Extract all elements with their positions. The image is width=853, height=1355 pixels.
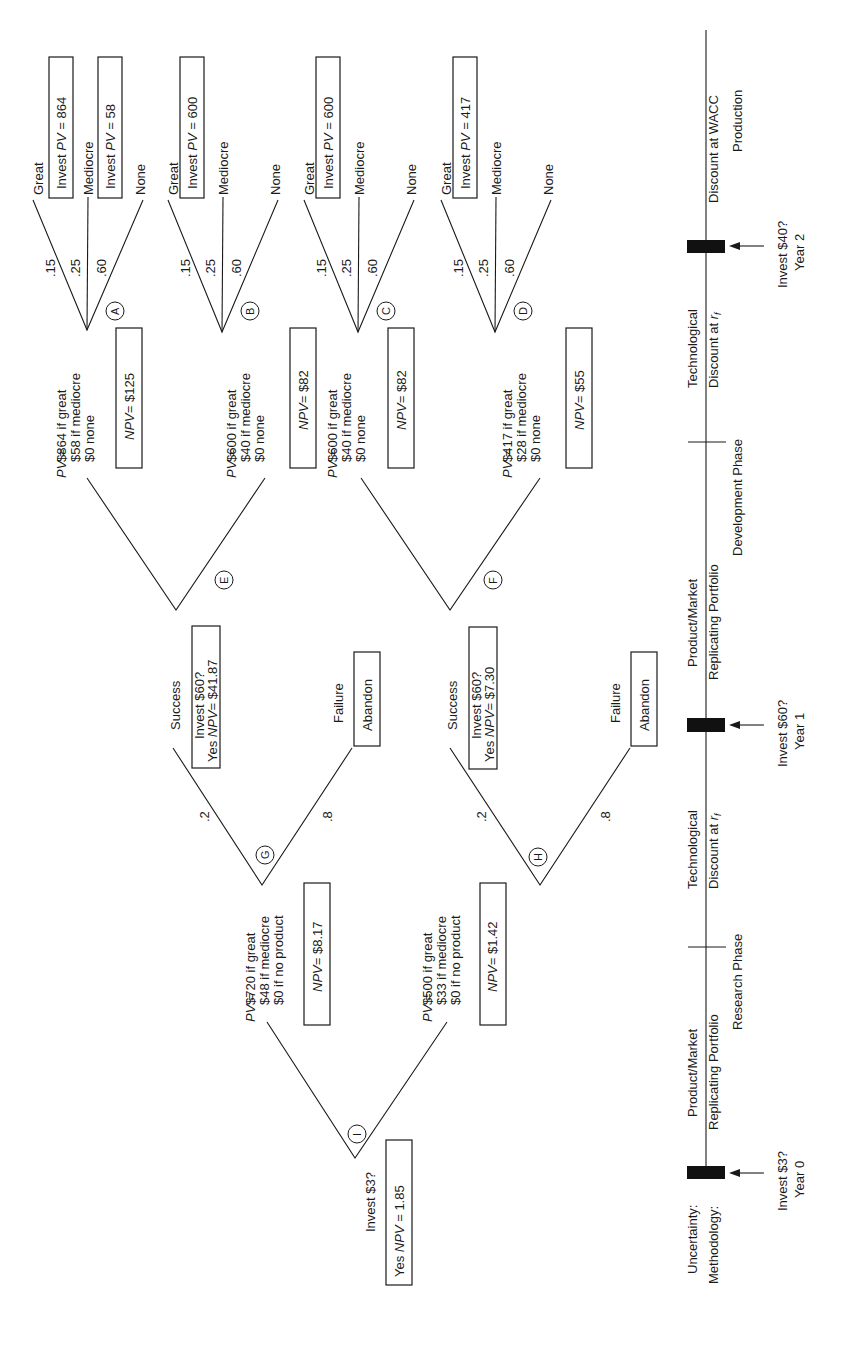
node-a-mediocre-branch [87,197,88,330]
segment-1-uncertainty: Product/Market [685,1028,700,1117]
node-g-group: G .2 .8 Success Invest $60? Yes NPV= $41… [168,626,380,885]
node-i-group: I PV = $720 if great $48 if mediocre $0 … [243,883,506,1285]
timeline-year-1-question: Invest $60? [775,700,790,767]
segment-3-uncertainty: Product/Market [685,578,700,667]
phase-development: Development Phase [730,439,745,556]
node-g-failure-label: Failure [331,683,346,723]
node-d-none-label: None [541,164,556,195]
node-h-success-box-line-2: Yes NPV= $7.30 [482,667,497,762]
node-g-prob-success: .2 [197,811,212,822]
node-d-prob-mediocre: .25 [476,259,491,277]
node-a-prob-mediocre: .25 [68,259,83,277]
arrow-year-1-icon [729,721,764,729]
arrow-year-2-icon [729,242,764,250]
node-i-letter: I [351,1133,363,1136]
node-b-group: Great Mediocre None Invest PV = 600 .15 … [166,57,283,332]
node-i-lower-pv-line-2: $33 if mediocre [434,916,449,1005]
node-f-lower-pv-line-1: $417 if great [500,389,515,462]
node-d-letter: D [517,307,529,315]
segment-1-methodology: Replicating Portfolio [706,1014,721,1130]
node-a-none-label: None [133,164,148,195]
node-f-upper-npv-text: NPV= $82 [394,370,409,430]
timeline-year-0-label: Year 0 [792,1161,807,1198]
node-f-lower-pv-line-2: $28 if mediocre [514,373,529,462]
node-b-mediocre-branch [222,197,223,332]
node-f-upper-pv-line-2: $40 if mediocre [339,373,354,462]
node-h-prob-failure: .8 [598,811,613,822]
timeline-year-0-question: Invest $3? [775,1151,790,1211]
node-b-great-invest-text: Invest PV = 600 [185,97,200,189]
node-b-letter: B [244,308,256,315]
node-i-decision-text: Yes NPV = 1.85 [392,1185,407,1277]
node-b-great-label: Great [166,162,181,195]
timeline: Invest $3? Year 0 Invest $60? Year 1 Inv… [685,30,807,1284]
node-a-great-label: Great [31,162,46,195]
node-g-abandon-text: Abandon [360,679,375,731]
node-c-group: Great Mediocre None Invest PV = 600 .15 … [302,57,419,332]
node-e-group: E PV = $864 if great $58 if mediocre $0 … [54,328,316,610]
node-h-prob-success: .2 [474,811,489,822]
segment-4-uncertainty: Technological [685,309,700,388]
node-f-upper-pv-line-1: $600 if great [325,389,340,462]
node-h-group: H .2 .8 Success Invest $60? Yes NPV= $7.… [445,627,657,885]
decision-block-year-1 [687,718,725,732]
node-g-letter: G [259,850,271,859]
node-c-letter: C [380,307,392,315]
node-e-lower-npv-text: NPV= $82 [296,370,311,430]
node-d-prob-great: .15 [451,259,466,277]
timeline-year-1-label: Year 1 [792,713,807,750]
phase-research: Research Phase [730,934,745,1030]
node-b-mediocre-label: Mediocre [216,142,231,195]
segment-5-methodology: Discount at WACC [706,95,721,203]
node-a-prob-none: .60 [94,259,109,277]
node-a-group: Great Mediocre None Invest PV = 864 Inve… [31,57,148,330]
node-i-upper-npv-text: NPV= $8.17 [310,922,325,992]
timeline-uncertainty-row-label: Uncertainty: [685,1205,700,1274]
decision-block-year-2 [687,240,725,253]
node-e-lower-pv-line-2: $40 if mediocre [238,373,253,462]
decision-tree-diagram: Great Mediocre None Invest PV = 864 Inve… [0,0,853,1355]
node-b-prob-none: .60 [229,259,244,277]
node-i-upper-pv-line-3: $0 if no product [271,915,286,1005]
node-c-mediocre-branch [358,197,359,332]
node-h-failure-label: Failure [608,683,623,723]
segment-2-methodology: Discount at rf [706,812,723,889]
node-b-prob-great: .15 [178,259,193,277]
node-i-lower-pv-line-3: $0 if no product [448,915,463,1005]
node-c-great-invest-text: Invest PV = 600 [321,97,336,189]
node-d-mediocre-label: Mediocre [489,142,504,195]
node-i-lower-npv-text: NPV= $1.42 [485,922,500,992]
node-c-prob-none: .60 [365,259,380,277]
segment-4-methodology: Discount at rf [706,311,723,388]
timeline-methodology-row-label: Methodology: [706,1206,721,1284]
node-h-abandon-text: Abandon [637,679,652,731]
node-e-letter: E [218,577,230,584]
timeline-year-2-label: Year 2 [792,234,807,271]
node-b-none-label: None [268,164,283,195]
node-a-mediocre-invest-text: Invest PV = 58 [103,104,118,189]
node-e-lower-pv-line-1: $600 if great [224,389,239,462]
node-i-upper-pv-line-2: $48 if mediocre [257,916,272,1005]
node-c-prob-great: .15 [314,259,329,277]
node-h-success-label: Success [445,680,460,730]
node-e-branches [87,478,265,610]
segment-3-methodology: Replicating Portfolio [706,564,721,680]
timeline-year-2-question: Invest $40? [775,221,790,288]
node-g-success-label: Success [168,680,183,730]
node-f-upper-pv-line-3: $0 none [353,415,368,462]
node-e-upper-pv-line-3: $0 none [82,415,97,462]
node-i-upper-pv-line-1: $720 if great [243,932,258,1005]
node-e-lower-pv-line-3: $0 none [252,415,267,462]
phase-production: Production [730,90,745,152]
segment-2-uncertainty: Technological [685,810,700,889]
node-f-branches [361,478,540,610]
node-e-upper-npv-text: NPV= $125 [122,373,137,440]
node-d-group: Great Mediocre None Invest PV = 417 .15 … [439,57,556,332]
node-i-lower-pv-line-1: $500 if great [420,932,435,1005]
node-c-great-label: Great [302,162,317,195]
node-f-lower-npv-text: NPV= $55 [572,370,587,430]
node-d-great-label: Great [439,162,454,195]
node-g-success-box-line-2: Yes NPV= $41.87 [205,659,220,762]
node-f-letter: F [487,577,499,584]
node-e-upper-pv-line-1: $864 if great [54,389,69,462]
